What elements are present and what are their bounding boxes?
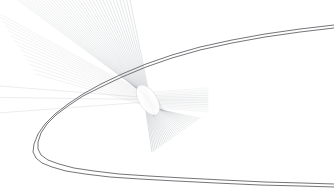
ray-diagram-canvas [0, 0, 334, 189]
ray-diagram-figure [0, 0, 334, 189]
